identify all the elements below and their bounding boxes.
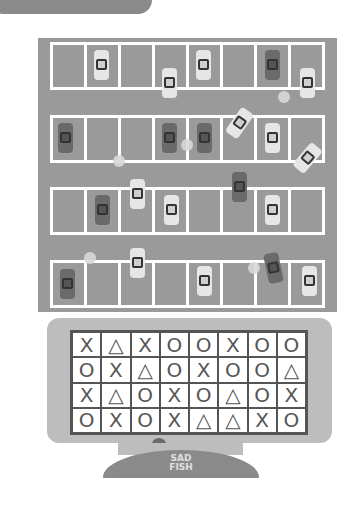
pedestrian	[84, 252, 96, 264]
grid-cell[interactable]: O	[248, 357, 277, 382]
car-light[interactable]	[94, 50, 109, 80]
parking-row-1	[50, 42, 325, 90]
stall[interactable]	[53, 45, 87, 87]
grid-cell[interactable]: X	[218, 332, 247, 357]
car-dark[interactable]	[60, 269, 75, 299]
stall[interactable]	[189, 190, 223, 232]
grid-cell[interactable]: O	[131, 408, 160, 433]
car-light[interactable]	[265, 195, 280, 225]
car-light[interactable]	[162, 68, 177, 98]
grid-cell[interactable]: X	[248, 408, 277, 433]
stall[interactable]	[121, 118, 155, 160]
grid-cell[interactable]: △	[277, 357, 306, 382]
stall[interactable]	[53, 190, 87, 232]
stall[interactable]	[121, 45, 155, 87]
grid-cell[interactable]: X	[72, 332, 101, 357]
car-dark[interactable]	[95, 195, 110, 225]
parking-row-3	[50, 187, 325, 235]
grid-cell[interactable]: △	[101, 383, 130, 408]
grid-cell[interactable]: O	[218, 357, 247, 382]
stall[interactable]	[87, 118, 121, 160]
grid-cell[interactable]: X	[101, 357, 130, 382]
car-light[interactable]	[130, 179, 145, 209]
grid-cell[interactable]: X	[277, 383, 306, 408]
pedestrian	[278, 91, 290, 103]
stall[interactable]	[291, 190, 325, 232]
stall[interactable]	[155, 263, 189, 305]
pedestrian	[113, 155, 125, 167]
parking-lot	[38, 38, 337, 312]
grid-cell[interactable]: X	[189, 357, 218, 382]
grid-cell[interactable]: X	[72, 383, 101, 408]
stall[interactable]	[87, 263, 121, 305]
grid-cell[interactable]: X	[160, 408, 189, 433]
symbol-grid: X △ X O O X O O O X △ O X O O △ X △ O X …	[70, 330, 308, 435]
grid-cell[interactable]: X	[101, 408, 130, 433]
car-light[interactable]	[196, 50, 211, 80]
monitor: X △ X O O X O O O X △ O X O O △ X △ O X …	[47, 318, 332, 443]
grid-cell[interactable]: X	[131, 332, 160, 357]
grid-cell[interactable]: O	[160, 357, 189, 382]
stall[interactable]	[223, 45, 257, 87]
car-light[interactable]	[164, 195, 179, 225]
grid-cell[interactable]: △	[189, 408, 218, 433]
grid-cell[interactable]: O	[248, 332, 277, 357]
car-light[interactable]	[197, 266, 212, 296]
grid-cell[interactable]: O	[277, 408, 306, 433]
logo-line-2: FISH	[169, 463, 193, 472]
car-dark[interactable]	[232, 172, 247, 202]
grid-cell[interactable]: O	[189, 332, 218, 357]
grid-cell[interactable]: O	[131, 383, 160, 408]
parking-row-4	[50, 260, 325, 308]
grid-cell[interactable]: O	[72, 357, 101, 382]
grid-cell[interactable]: O	[160, 332, 189, 357]
pedestrian	[181, 139, 193, 151]
grid-cell[interactable]: △	[218, 408, 247, 433]
car-light[interactable]	[265, 123, 280, 153]
car-dark[interactable]	[162, 123, 177, 153]
car-dark[interactable]	[197, 123, 212, 153]
grid-cell[interactable]: △	[131, 357, 160, 382]
car-light[interactable]	[300, 68, 315, 98]
grid-cell[interactable]: △	[101, 332, 130, 357]
grid-cell[interactable]: X	[160, 383, 189, 408]
header-tab	[0, 0, 152, 14]
grid-cell[interactable]: O	[277, 332, 306, 357]
brand-logo: SAD FISH	[169, 454, 193, 472]
grid-cell[interactable]: O	[248, 383, 277, 408]
grid-cell[interactable]: O	[189, 383, 218, 408]
car-light[interactable]	[130, 248, 145, 278]
car-dark[interactable]	[58, 123, 73, 153]
car-light[interactable]	[302, 266, 317, 296]
car-dark[interactable]	[265, 50, 280, 80]
grid-cell[interactable]: O	[72, 408, 101, 433]
grid-cell[interactable]: △	[218, 383, 247, 408]
pedestrian	[248, 262, 260, 274]
